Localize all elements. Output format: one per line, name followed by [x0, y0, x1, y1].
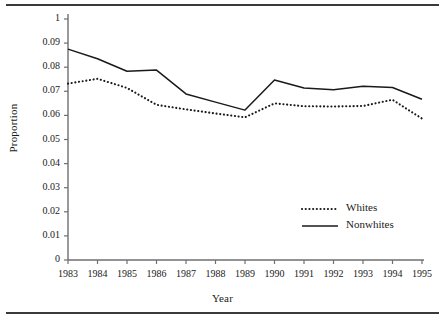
legend-label-nonwhites: Nonwhites — [346, 218, 394, 230]
y-axis-tick-label: 0.01 — [26, 229, 60, 240]
y-axis-tick-label: 1 — [26, 12, 60, 23]
legend-label-whites: Whites — [346, 201, 377, 213]
x-axis-tick-label: 1995 — [402, 268, 442, 279]
y-axis-tick-label: 0.04 — [26, 157, 60, 168]
series-line-whites — [68, 79, 422, 119]
y-axis-tick-label: 0.05 — [26, 133, 60, 144]
y-axis-title: Proportion — [7, 88, 19, 168]
y-axis-tick-label: 0.09 — [26, 36, 60, 47]
y-axis-tick-label: 0 — [26, 253, 60, 264]
figure-container: Proportion Year 00.010.020.030.040.050.0… — [0, 0, 445, 321]
y-axis-tick-label: 0.07 — [26, 84, 60, 95]
y-axis-tick-label: 0.06 — [26, 108, 60, 119]
y-axis-tick-label: 0.02 — [26, 205, 60, 216]
x-axis-title: Year — [0, 292, 445, 304]
y-axis-tick-label: 0.08 — [26, 60, 60, 71]
y-axis-tick-label: 0.03 — [26, 181, 60, 192]
series-line-nonwhites — [68, 49, 422, 110]
